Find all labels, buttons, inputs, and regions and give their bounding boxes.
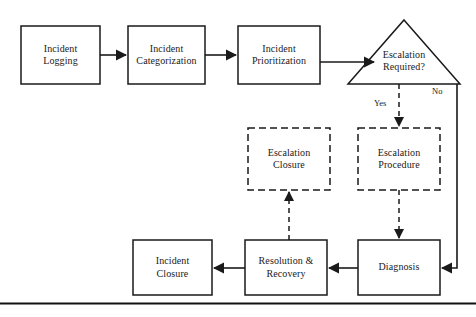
node-incident-prioritization	[238, 26, 320, 84]
flowchart-canvas: Incident Logging Incident Categorization…	[0, 0, 476, 317]
edge-label-yes: Yes	[374, 98, 386, 108]
node-escalation-required	[348, 20, 460, 84]
node-incident-closure	[133, 240, 212, 295]
edge-decision-no-to-diagnosis	[442, 84, 457, 268]
flowchart-graphics	[0, 0, 476, 317]
node-incident-logging	[21, 26, 100, 84]
edge-label-no: No	[432, 86, 442, 96]
node-diagnosis	[358, 240, 440, 295]
node-incident-categorization	[128, 26, 205, 84]
node-resolution-recovery	[245, 240, 327, 295]
node-escalation-procedure	[358, 128, 440, 190]
node-escalation-closure	[248, 128, 330, 190]
